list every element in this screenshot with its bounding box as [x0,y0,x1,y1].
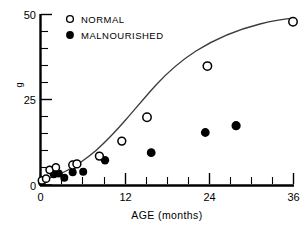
data-point-normal [96,152,104,160]
y-tick-label-25: 25 [24,94,36,106]
chart-canvas: 50 25 0 0 12 24 36 AGE (months) g [0,0,307,229]
growth-chart-figure: 50 25 0 0 12 24 36 AGE (months) g [0,0,307,229]
legend-label-normal: NORMAL [81,14,125,25]
data-point-normal [73,160,81,168]
legend-label-malnourished: MALNOURISHED [81,30,164,41]
data-point-malnourished [60,174,68,182]
x-tick-label-24: 24 [203,191,215,203]
data-point-malnourished [79,168,87,176]
data-point-normal [289,18,297,26]
x-tick-label-12: 12 [119,191,131,203]
data-point-normal [143,113,151,121]
legend-filled-circle-icon [66,31,74,39]
data-point-normal [203,62,211,70]
data-point-malnourished [147,148,156,157]
data-point-normal [52,164,59,171]
y-tick-label-0: 0 [30,180,36,192]
y-axis-title: g [14,82,24,87]
data-point-normal [43,175,50,182]
y-tick-label-50: 50 [24,9,36,21]
legend-open-circle-icon [67,16,74,23]
data-point-malnourished [232,121,241,130]
x-tick-label-0: 0 [37,191,43,203]
x-tick-label-36: 36 [287,191,299,203]
x-axis-title: AGE (months) [131,209,202,221]
data-point-malnourished [201,128,210,137]
data-point-normal [118,137,126,145]
